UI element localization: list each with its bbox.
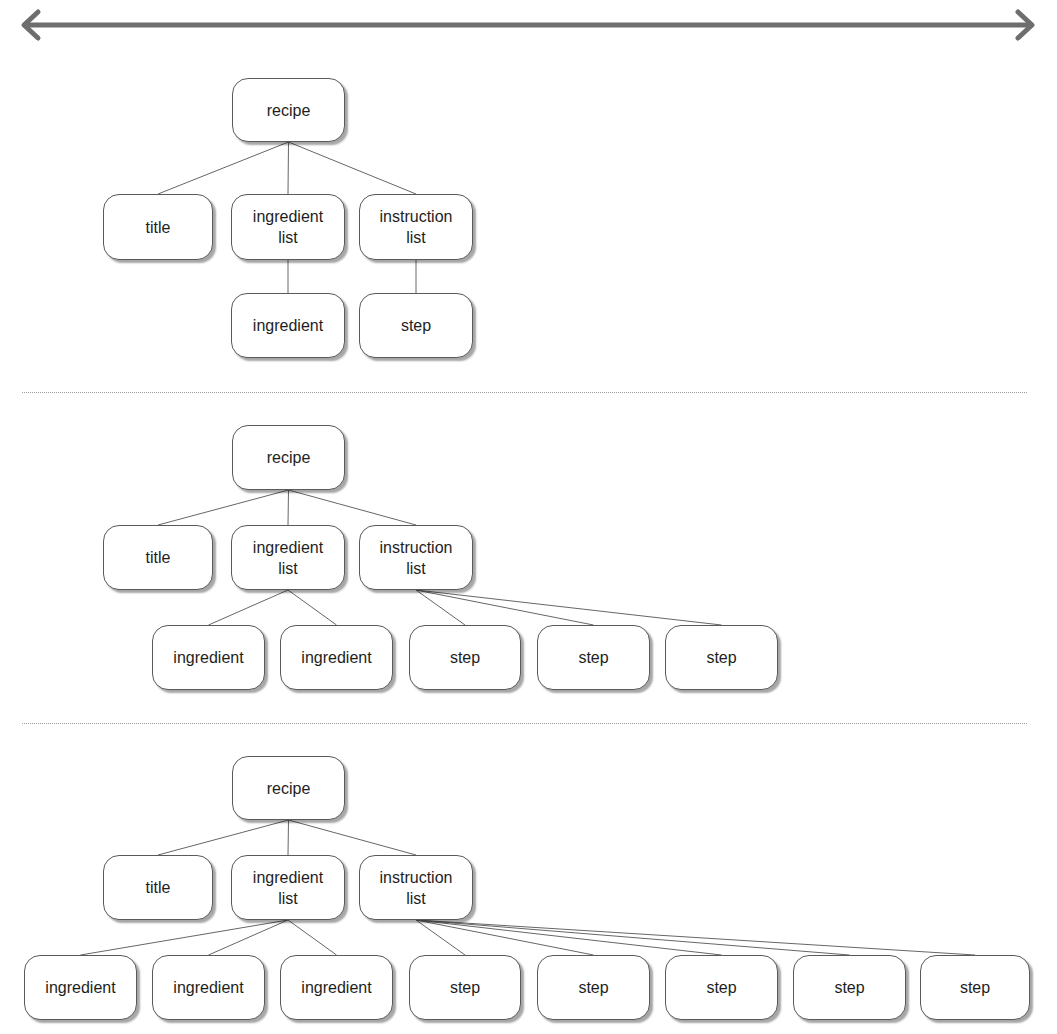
panel-separator — [22, 723, 1027, 724]
node-label: ingredient — [173, 647, 243, 668]
tree-edge — [288, 142, 289, 194]
tree-node-ingredient-3: ingredient — [280, 955, 393, 1020]
node-label: step — [450, 977, 480, 998]
tree-edge — [288, 490, 289, 525]
tree-edge — [288, 920, 337, 955]
node-label: step — [706, 977, 736, 998]
tree-node-step-1: step — [409, 625, 521, 690]
tree-node-step-1: step — [409, 955, 521, 1020]
tree-edge — [289, 490, 417, 525]
tree-edge — [158, 490, 289, 525]
node-label: recipe — [267, 778, 311, 799]
tree-edges — [81, 142, 976, 955]
tree-node-step-3: step — [665, 955, 778, 1020]
tree-node-step-2: step — [537, 625, 650, 690]
node-label: step — [578, 647, 608, 668]
tree-node-instruction-list: instruction list — [359, 525, 473, 590]
tree-node-ingredient-1: ingredient — [152, 625, 265, 690]
tree-edge — [416, 920, 850, 955]
tree-node-step-3: step — [665, 625, 778, 690]
panel-separator — [22, 392, 1027, 393]
node-label: step — [401, 315, 431, 336]
tree-edge — [209, 590, 289, 625]
tree-node-recipe: recipe — [232, 425, 345, 490]
tree-node-step-4: step — [793, 955, 906, 1020]
tree-node-title: title — [103, 525, 213, 590]
tree-node-ingredient-list: ingredient list — [231, 194, 345, 260]
tree-node-title: title — [103, 194, 213, 260]
tree-node-step-1: step — [359, 293, 473, 358]
double-headed-arrow-icon — [24, 12, 1032, 38]
tree-edge — [416, 920, 594, 955]
node-label: instruction list — [380, 206, 453, 248]
tree-node-recipe: recipe — [232, 78, 345, 142]
tree-node-ingredient-list: ingredient list — [231, 525, 345, 590]
tree-edge — [288, 590, 337, 625]
tree-edge — [288, 820, 289, 855]
tree-edge — [158, 820, 289, 855]
node-label: ingredient — [253, 315, 323, 336]
tree-node-title: title — [103, 855, 213, 920]
tree-edge — [209, 920, 289, 955]
tree-node-ingredient-1: ingredient — [24, 955, 137, 1020]
tree-edge — [416, 920, 465, 955]
tree-edge — [416, 920, 975, 955]
node-label: title — [146, 877, 171, 898]
tree-edge — [416, 920, 722, 955]
node-label: ingredient — [173, 977, 243, 998]
tree-edge — [81, 920, 289, 955]
tree-node-ingredient-1: ingredient — [231, 293, 345, 358]
tree-node-step-2: step — [537, 955, 650, 1020]
tree-edge — [158, 142, 289, 194]
node-label: step — [960, 977, 990, 998]
tree-edge — [416, 590, 594, 625]
node-label: recipe — [267, 447, 311, 468]
node-label: instruction list — [380, 867, 453, 909]
tree-node-ingredient-list: ingredient list — [231, 855, 345, 920]
node-label: instruction list — [380, 537, 453, 579]
node-label: title — [146, 217, 171, 238]
tree-node-recipe: recipe — [232, 756, 345, 820]
tree-edge — [416, 590, 465, 625]
node-label: step — [706, 647, 736, 668]
tree-node-ingredient-2: ingredient — [280, 625, 393, 690]
tree-node-ingredient-2: ingredient — [152, 955, 265, 1020]
tree-edge — [289, 820, 417, 855]
node-label: ingredient — [301, 647, 371, 668]
node-label: step — [578, 977, 608, 998]
node-label: step — [834, 977, 864, 998]
recipe-tree-diagram: recipetitleingredient listinstruction li… — [0, 0, 1057, 1034]
node-label: ingredient list — [253, 867, 323, 909]
node-label: ingredient — [301, 977, 371, 998]
tree-node-step-5: step — [920, 955, 1030, 1020]
tree-edge — [289, 142, 417, 194]
tree-node-instruction-list: instruction list — [359, 855, 473, 920]
tree-edge — [416, 590, 722, 625]
node-label: ingredient list — [253, 537, 323, 579]
tree-node-instruction-list: instruction list — [359, 194, 473, 260]
node-label: ingredient — [45, 977, 115, 998]
node-label: step — [450, 647, 480, 668]
node-label: title — [146, 547, 171, 568]
node-label: ingredient list — [253, 206, 323, 248]
node-label: recipe — [267, 100, 311, 121]
